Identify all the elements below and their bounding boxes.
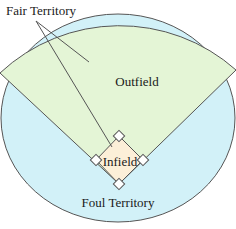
outfield-label: Outfield: [115, 74, 159, 89]
baseball-field-diagram: Fair Territory Outfield Infield Foul Ter…: [0, 0, 236, 229]
infield-label: Infield: [103, 154, 138, 169]
fair-territory-label: Fair Territory: [6, 3, 76, 18]
foul-territory-label: Foul Territory: [82, 195, 155, 210]
